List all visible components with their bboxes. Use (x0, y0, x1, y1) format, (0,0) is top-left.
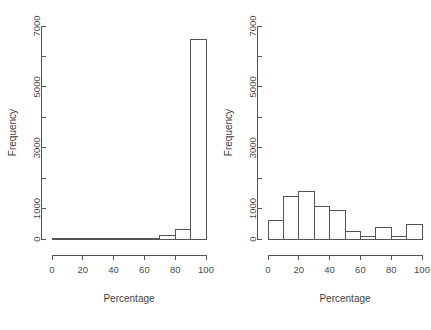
x-axis-tick-label: 40 (324, 264, 335, 275)
left-histogram-panel: 01000300050007000020406080100PercentageF… (0, 0, 216, 330)
bars-group (52, 40, 206, 239)
x-axis-title: Percentage (103, 293, 155, 304)
y-axis-tick-label: 5000 (31, 76, 42, 97)
y-axis-title: Frequency (7, 109, 18, 156)
x-axis-tick-label: 60 (355, 264, 366, 275)
histogram-bar (144, 238, 159, 239)
histogram-bar (345, 232, 360, 239)
histogram-bar (406, 225, 421, 239)
histogram-bar (268, 220, 283, 239)
histogram-bar (191, 40, 206, 239)
y-axis-tick-label: 1000 (31, 198, 42, 219)
histogram-bar (114, 239, 129, 240)
x-axis-tick-label: 20 (78, 264, 89, 275)
x-axis-tick-label: 100 (414, 264, 430, 275)
y-axis-tick-label: 0 (246, 236, 257, 241)
histogram-bar (175, 230, 190, 239)
x-axis-tick-label: 40 (108, 264, 119, 275)
histogram-bar (329, 211, 344, 239)
right-histogram-panel: 01000300050007000020406080100PercentageF… (216, 0, 431, 330)
x-axis-tick-label: 60 (139, 264, 150, 275)
y-axis-title: Frequency (223, 109, 234, 156)
histogram-bar (129, 239, 144, 240)
x-axis-tick-label: 100 (198, 264, 214, 275)
y-axis-tick-label: 3000 (246, 137, 257, 158)
histogram-bar (67, 239, 82, 240)
y-axis-tick-label: 1000 (246, 198, 257, 219)
x-axis-tick-label: 0 (49, 264, 54, 275)
histogram-bar (298, 192, 313, 239)
bars-group (268, 192, 422, 239)
x-axis-tick-label: 20 (293, 264, 304, 275)
y-axis-tick-label: 0 (31, 236, 42, 241)
y-axis-tick-label: 7000 (31, 15, 42, 36)
x-axis-tick-label: 80 (385, 264, 396, 275)
x-axis-tick-label: 80 (170, 264, 181, 275)
histogram-bar (283, 196, 298, 239)
histogram-bar (360, 236, 375, 239)
right-histogram-plot: 01000300050007000020406080100PercentageF… (216, 0, 431, 330)
histogram-bar (375, 228, 390, 239)
left-histogram-plot: 01000300050007000020406080100PercentageF… (0, 0, 215, 330)
histogram-bar (52, 239, 67, 240)
histogram-bar (314, 206, 329, 239)
y-axis-tick-label: 5000 (246, 76, 257, 97)
histogram-bar (98, 239, 113, 240)
x-axis-title: Percentage (319, 293, 371, 304)
histogram-bar (83, 239, 98, 240)
histogram-figure: 01000300050007000020406080100PercentageF… (0, 0, 431, 330)
x-axis-tick-label: 0 (265, 264, 270, 275)
histogram-bar (391, 237, 406, 239)
y-axis-tick-label: 3000 (31, 137, 42, 158)
y-axis-tick-label: 7000 (246, 15, 257, 36)
histogram-bar (160, 236, 175, 239)
